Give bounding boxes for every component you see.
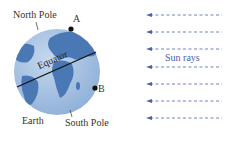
point-b-marker (92, 85, 97, 90)
point-a-label: A (73, 14, 80, 24)
point-b-label: B (98, 84, 105, 94)
sun-rays (146, 13, 222, 120)
earth-label: Earth (22, 116, 44, 126)
north-pole-label: North Pole (13, 10, 57, 20)
earth-globe (14, 22, 100, 117)
sun-rays-label: Sun rays (165, 53, 200, 63)
south-pole-label: South Pole (65, 118, 109, 128)
point-a-marker (68, 26, 73, 31)
